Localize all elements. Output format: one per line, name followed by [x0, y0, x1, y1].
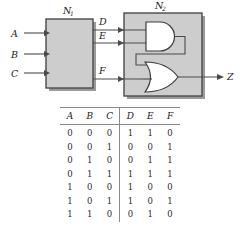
- arrowhead-f: [118, 76, 124, 82]
- truth-table-header: A B C D E F: [60, 108, 180, 125]
- table-cell: 1: [80, 154, 100, 168]
- label-input-b: B: [10, 49, 18, 60]
- label-input-a: A: [10, 28, 18, 39]
- arrowhead-d: [118, 27, 124, 33]
- table-cell: 0: [140, 195, 160, 209]
- label-signal-f: F: [98, 65, 106, 76]
- table-row: 001001: [60, 141, 180, 155]
- table-cell: 0: [100, 208, 120, 222]
- arrowhead-z: [217, 74, 224, 80]
- table-cell: 1: [140, 154, 160, 168]
- table-cell: 0: [60, 168, 80, 182]
- table-cell: 1: [140, 168, 160, 182]
- label-signal-e: E: [98, 30, 106, 41]
- table-cell: 1: [80, 168, 100, 182]
- table-cell: 0: [60, 125, 80, 141]
- table-cell: 0: [80, 195, 100, 209]
- table-cell: 0: [60, 141, 80, 155]
- table-cell: 0: [140, 181, 160, 195]
- and-gate: [146, 22, 175, 51]
- arrowhead-e: [118, 40, 124, 46]
- truth-table: A B C D E F 0001100010010100110111111001…: [60, 107, 180, 222]
- table-cell: 1: [140, 208, 160, 222]
- column-header-b: B: [80, 108, 100, 125]
- table-cell: 0: [140, 141, 160, 155]
- table-row: 010011: [60, 154, 180, 168]
- table-cell: 1: [140, 125, 160, 141]
- table-cell: 1: [120, 195, 140, 209]
- table-cell: 1: [100, 168, 120, 182]
- table-cell: 0: [100, 154, 120, 168]
- table-cell: 0: [120, 208, 140, 222]
- table-cell: 1: [160, 168, 180, 182]
- label-block-n1-subscript: 1: [70, 10, 74, 17]
- table-cell: 0: [120, 141, 140, 155]
- n1-block: [46, 19, 93, 88]
- table-cell: 0: [60, 154, 80, 168]
- table-cell: 0: [80, 141, 100, 155]
- table-cell: 1: [100, 141, 120, 155]
- column-header-a: A: [60, 108, 80, 125]
- table-cell: 0: [160, 208, 180, 222]
- table-row: 000110: [60, 125, 180, 141]
- table-cell: 1: [120, 168, 140, 182]
- figure-page: A B C D E F Z N 1 N 2 A B C D E F: [0, 0, 240, 230]
- truth-table-container: A B C D E F 0001100010010100110111111001…: [0, 104, 240, 230]
- table-cell: 1: [120, 181, 140, 195]
- label-input-c: C: [11, 68, 19, 79]
- table-header-row: A B C D E F: [60, 108, 180, 125]
- table-cell: 1: [160, 154, 180, 168]
- column-header-d: D: [120, 108, 140, 125]
- table-row: 011111: [60, 168, 180, 182]
- table-cell: 0: [80, 181, 100, 195]
- table-row: 110010: [60, 208, 180, 222]
- table-cell: 1: [60, 208, 80, 222]
- label-signal-d: D: [98, 16, 107, 27]
- table-cell: 0: [120, 154, 140, 168]
- table-cell: 1: [100, 195, 120, 209]
- table-cell: 1: [60, 195, 80, 209]
- table-cell: 1: [60, 181, 80, 195]
- label-output-z: Z: [226, 71, 234, 82]
- circuit-diagram: A B C D E F Z N 1 N 2: [0, 0, 240, 105]
- table-cell: 0: [160, 181, 180, 195]
- table-cell: 0: [100, 125, 120, 141]
- truth-table-body: 0001100010010100110111111001001011011100…: [60, 125, 180, 222]
- column-header-f: F: [160, 108, 180, 125]
- table-cell: 1: [120, 125, 140, 141]
- table-cell: 1: [80, 208, 100, 222]
- table-row: 100100: [60, 181, 180, 195]
- table-cell: 1: [160, 141, 180, 155]
- column-header-e: E: [140, 108, 160, 125]
- table-cell: 0: [80, 125, 100, 141]
- table-cell: 0: [100, 181, 120, 195]
- table-cell: 0: [160, 125, 180, 141]
- table-row: 101101: [60, 195, 180, 209]
- column-header-c: C: [100, 108, 120, 125]
- label-block-n2-subscript: 2: [161, 5, 166, 12]
- table-cell: 1: [160, 195, 180, 209]
